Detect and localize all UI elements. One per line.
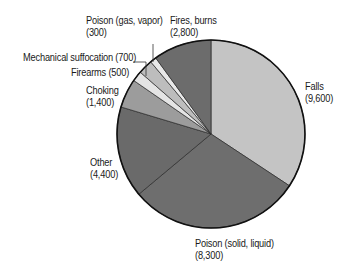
label-falls-name: Falls <box>305 80 333 92</box>
label-firearms: Firearms (500) <box>71 66 129 78</box>
label-poison-gas: Poison (gas, vapor) (300) <box>86 14 163 38</box>
pie-chart <box>0 0 352 275</box>
label-choking: Choking (1,400) <box>86 84 119 108</box>
label-choking-name: Choking <box>86 84 119 96</box>
label-falls-value: (9,600) <box>305 92 333 104</box>
label-fires: Fires, burns (2,800) <box>170 14 217 38</box>
label-mechanical-text: Mechanical suffocation (700) <box>23 51 136 63</box>
label-other: Other (4,400) <box>90 156 118 180</box>
pie-slices <box>117 40 305 228</box>
label-other-value: (4,400) <box>90 168 118 180</box>
label-other-name: Other <box>90 156 118 168</box>
label-poison-solid: Poison (solid, liquid) (8,300) <box>195 237 274 261</box>
label-firearms-text: Firearms (500) <box>71 66 129 78</box>
label-poison-gas-name: Poison (gas, vapor) <box>86 14 163 26</box>
label-poison-gas-value: (300) <box>86 26 163 38</box>
label-choking-value: (1,400) <box>86 96 119 108</box>
label-falls: Falls (9,600) <box>305 80 333 104</box>
label-poison-solid-value: (8,300) <box>195 249 274 261</box>
label-fires-name: Fires, burns <box>170 14 217 26</box>
label-mechanical: Mechanical suffocation (700) <box>23 51 136 63</box>
label-fires-value: (2,800) <box>170 26 217 38</box>
label-poison-solid-name: Poison (solid, liquid) <box>195 237 274 249</box>
